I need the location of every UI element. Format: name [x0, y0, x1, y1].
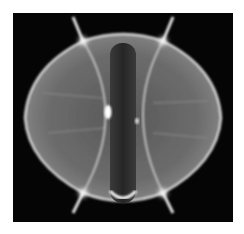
- central-column: [110, 43, 136, 203]
- plasma-illustration: [13, 13, 233, 222]
- hotspot-small: [135, 118, 139, 124]
- hotspot: [105, 105, 112, 119]
- plasma-photo: [13, 13, 233, 222]
